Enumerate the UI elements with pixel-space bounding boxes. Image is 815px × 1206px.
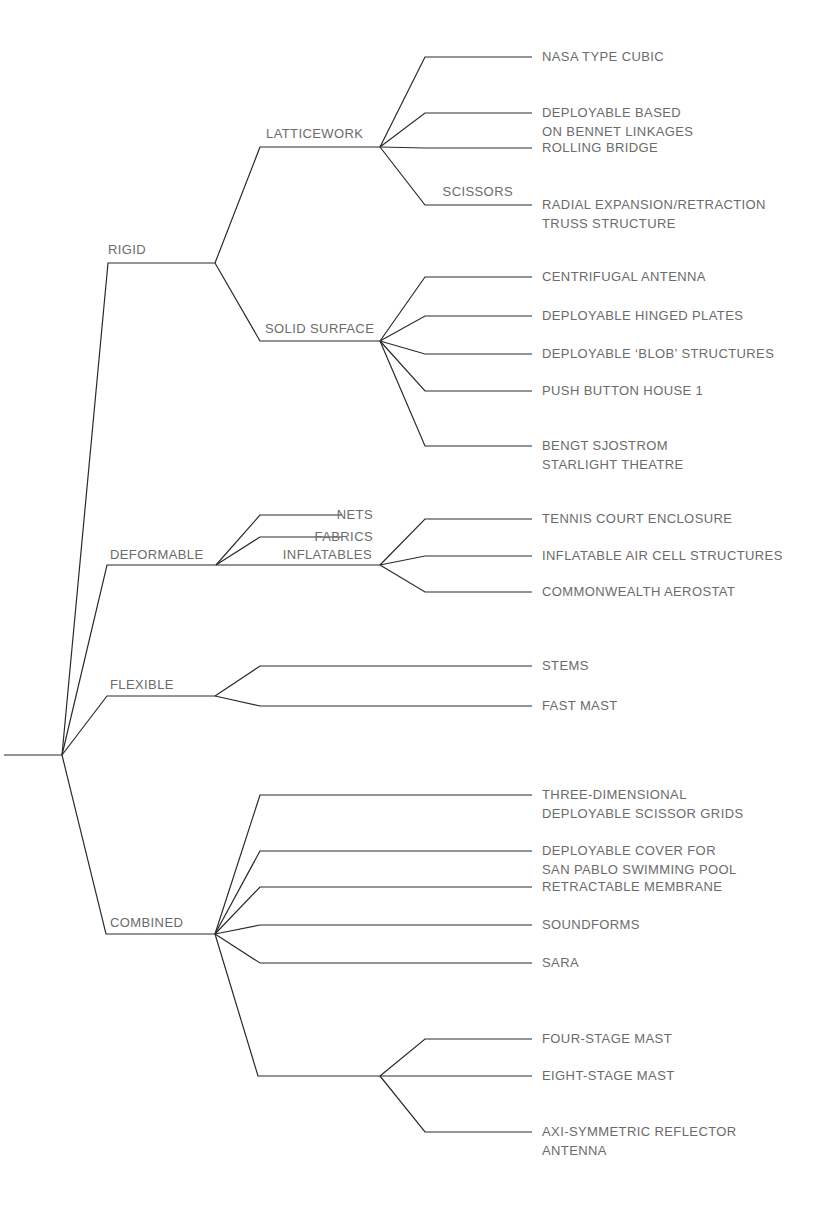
branch-line-tennis-court-enclosure	[380, 519, 532, 565]
leaf-axi-symmetric-reflector-antenna: AXI-SYMMETRIC REFLECTORANTENNA	[542, 1122, 737, 1160]
leaf-push-button-house-1: PUSH BUTTON HOUSE 1	[542, 381, 703, 400]
branch-line-soundforms	[215, 925, 532, 934]
leaf-tennis-court-enclosure: TENNIS COURT ENCLOSURE	[542, 509, 732, 528]
leaf-retractable-membrane: RETRACTABLE MEMBRANE	[542, 877, 722, 896]
branch-line-sara	[215, 934, 532, 963]
tree-diagram	[0, 0, 815, 1206]
subcategory-latticework: LATTICEWORK	[266, 124, 363, 143]
leaf-inflatable-air-cell-structures: INFLATABLE AIR CELL STRUCTURES	[542, 546, 783, 565]
leaf-deployable-based-on-bennet-linkages: DEPLOYABLE BASEDON BENNET LINKAGES	[542, 103, 693, 141]
branch-line-stems	[215, 666, 532, 696]
category-deformable: DEFORMABLE	[110, 545, 204, 564]
branch-line-push-button-house-1	[380, 341, 532, 391]
branch-line-deployable-based-on-bennet-linkages	[380, 113, 532, 147]
leaf-radial-expansion-retraction-truss-structure: RADIAL EXPANSION/RETRACTIONTRUSS STRUCTU…	[542, 195, 766, 233]
branch-line-axi-symmetric-reflector-antenna	[380, 1076, 532, 1132]
leaf-eight-stage-mast: EIGHT-STAGE MAST	[542, 1066, 675, 1085]
branch-line-retractable-membrane	[215, 887, 532, 934]
branch-line-deployable-cover-for-san-pablo-swimming-pool	[215, 851, 532, 934]
category-line-deformable	[62, 565, 216, 755]
leaf-bengt-sjostrom-starlight-theatre: BENGT SJOSTROMSTARLIGHT THEATRE	[542, 436, 684, 474]
subcategory-line-masts	[215, 934, 380, 1076]
leaf-soundforms: SOUNDFORMS	[542, 915, 640, 934]
side-branch-fabrics: FABRICS	[315, 527, 373, 546]
leaf-fast-mast: FAST MAST	[542, 696, 618, 715]
branch-line-deployable-hinged-plates	[380, 316, 532, 341]
category-line-flexible	[62, 696, 215, 755]
category-rigid: RIGID	[108, 240, 146, 259]
category-line-combined	[62, 755, 215, 934]
branch-label-scissors: SCISSORS	[443, 182, 513, 201]
leaf-stems: STEMS	[542, 656, 589, 675]
leaf-centrifugal-antenna: CENTRIFUGAL ANTENNA	[542, 267, 706, 286]
branch-line-centrifugal-antenna	[380, 277, 532, 341]
branch-line-deployable-blob-structures	[380, 341, 532, 354]
leaf-deployable-hinged-plates: DEPLOYABLE HINGED PLATES	[542, 306, 743, 325]
branch-line-commonwealth-aerostat	[380, 565, 532, 592]
leaf-four-stage-mast: FOUR-STAGE MAST	[542, 1029, 672, 1048]
branch-line-nasa-type-cubic	[380, 57, 532, 147]
side-branch-nets: NETS	[337, 505, 373, 524]
branch-line-bengt-sjostrom-starlight-theatre	[380, 341, 532, 446]
subcategory-line-latticework	[215, 147, 380, 263]
leaf-deployable-cover-for-san-pablo-swimming-pool: DEPLOYABLE COVER FORSAN PABLO SWIMMING P…	[542, 841, 737, 879]
category-combined: COMBINED	[110, 913, 183, 932]
leaf-rolling-bridge: ROLLING BRIDGE	[542, 138, 658, 157]
subcategory-solid-surface: SOLID SURFACE	[265, 319, 374, 338]
leaf-nasa-type-cubic: NASA TYPE CUBIC	[542, 47, 664, 66]
leaf-deployable-blob-structures: DEPLOYABLE ‘BLOB’ STRUCTURES	[542, 344, 774, 363]
branch-line-inflatable-air-cell-structures	[380, 556, 532, 565]
branch-line-fast-mast	[215, 696, 532, 706]
branch-line-four-stage-mast	[380, 1039, 532, 1076]
leaf-commonwealth-aerostat: COMMONWEALTH AEROSTAT	[542, 582, 735, 601]
subcategory-inflatables: INFLATABLES	[283, 545, 372, 564]
branch-line-rolling-bridge	[380, 147, 532, 148]
category-flexible: FLEXIBLE	[110, 675, 174, 694]
branch-line-three-dimensional-deployable-scissor-grids	[215, 795, 532, 934]
leaf-sara: SARA	[542, 953, 579, 972]
leaf-three-dimensional-deployable-scissor-grids: THREE-DIMENSIONALDEPLOYABLE SCISSOR GRID…	[542, 785, 744, 823]
